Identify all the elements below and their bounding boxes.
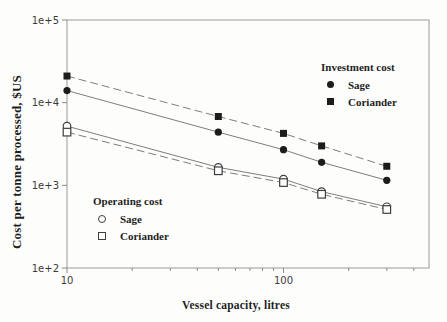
data-point-marker: [63, 87, 70, 94]
open-circle-icon: [98, 215, 106, 223]
legend-item-label: Coriander: [120, 230, 169, 242]
y-axis-title: Cost per tonne processed, $US: [9, 75, 25, 249]
y-tick-label: 1e+3: [32, 180, 59, 191]
data-point-marker: [215, 129, 222, 136]
data-point-marker: [318, 142, 325, 149]
legend-operating-cost: Operating cost Sage Coriander: [90, 195, 169, 244]
legend-investment-cost: Investment cost Sage Coriander: [318, 61, 397, 110]
y-tick-label: 1e+2: [32, 263, 59, 274]
data-point-marker: [383, 206, 391, 214]
data-point-marker: [318, 190, 326, 198]
legend-item-operating-coriander: Coriander: [90, 227, 169, 244]
data-point-marker: [383, 163, 390, 170]
x-tick-label: 100: [274, 275, 293, 286]
data-point-marker: [63, 128, 71, 136]
y-tick-label: 1e+5: [32, 15, 59, 26]
legend-item-label: Sage: [120, 213, 142, 225]
data-point-marker: [280, 179, 288, 187]
legend-item-investment-sage: Sage: [318, 76, 397, 93]
legend-item-operating-sage: Sage: [90, 210, 169, 227]
legend-item-investment-coriander: Coriander: [318, 93, 397, 110]
filled-circle-icon: [327, 81, 334, 88]
open-square-icon: [98, 232, 106, 240]
x-axis-title: Vessel capacity, litres: [182, 299, 290, 311]
legend-investment-title: Investment cost: [318, 61, 397, 73]
chart-figure: 1e+51e+41e+31e+210100 Cost per tonne pro…: [0, 0, 447, 322]
data-point-marker: [64, 73, 71, 80]
chart-plot-area: 1e+51e+41e+31e+210100: [0, 0, 447, 322]
filled-square-icon: [327, 98, 334, 105]
legend-operating-title: Operating cost: [90, 195, 169, 207]
data-point-marker: [215, 113, 222, 120]
data-point-marker: [280, 146, 287, 153]
data-point-marker: [318, 159, 325, 166]
y-tick-label: 1e+4: [32, 97, 59, 108]
data-point-marker: [215, 167, 223, 175]
legend-item-label: Sage: [348, 79, 370, 91]
data-point-marker: [383, 177, 390, 184]
legend-item-label: Coriander: [348, 96, 397, 108]
data-point-marker: [280, 130, 287, 137]
x-tick-label: 10: [61, 275, 74, 286]
